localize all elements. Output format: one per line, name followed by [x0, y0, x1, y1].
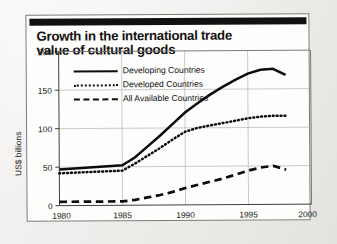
y-tick-labels: 200 150 100 50 0 — [38, 47, 53, 211]
x-tick-1980: 1980 — [52, 211, 71, 221]
legend-label-developed: Developed Countries — [118, 79, 203, 90]
legend-item-developed: Developed Countries — [74, 76, 254, 91]
x-tick-labels: 1980 1985 1990 1995 2000 — [52, 209, 317, 221]
x-tick-1985: 1985 — [113, 210, 132, 220]
legend-swatch-solid-icon — [74, 65, 118, 75]
y-tick-200: 200 — [38, 47, 52, 57]
title-rule — [29, 17, 306, 26]
y-tick-50: 50 — [43, 163, 53, 173]
legend-label-developing: Developing Countries — [118, 65, 205, 76]
chart-legend: Developing Countries Developed Countries… — [74, 62, 254, 105]
x-tick-1990: 1990 — [176, 210, 195, 220]
legend-swatch-dotted-icon — [74, 79, 118, 89]
y-tick-100: 100 — [38, 124, 52, 134]
figure-panel: Growth in the international trade value … — [25, 13, 310, 222]
x-tick-1995: 1995 — [239, 209, 258, 219]
legend-item-developing: Developing Countries — [74, 62, 254, 77]
legend-swatch-dashed-icon — [74, 93, 118, 103]
legend-item-all-available: All Available Countries — [74, 90, 254, 105]
y-tick-150: 150 — [38, 86, 52, 96]
x-tick-2000: 2000 — [298, 209, 317, 219]
y-axis-label: US$ billions — [13, 132, 23, 176]
legend-label-all-available: All Available Countries — [118, 93, 208, 104]
title-line-1: Growth in the international trade — [36, 28, 232, 44]
